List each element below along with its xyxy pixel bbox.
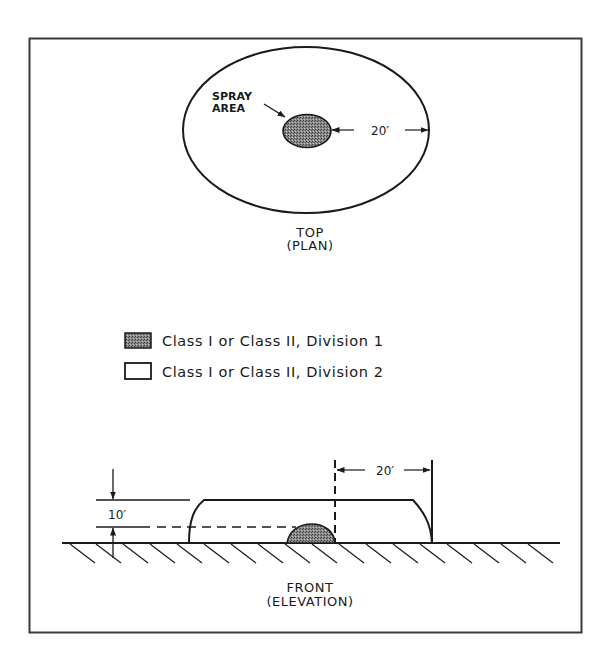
legend: Class I or Class II, Division 1 Class I … bbox=[125, 333, 384, 380]
height-dimension-label: 10′ bbox=[108, 508, 126, 522]
top-plan-view: SPRAY AREA 20′ TOP (PLAN) bbox=[183, 47, 429, 253]
front-view-subtitle: (ELEVATION) bbox=[267, 594, 354, 609]
radius-dimension-label: 20′ bbox=[371, 124, 389, 138]
legend-label-division1: Class I or Class II, Division 1 bbox=[162, 333, 384, 349]
top-view-subtitle: (PLAN) bbox=[286, 238, 333, 253]
legend-swatch-division2 bbox=[125, 363, 151, 379]
front-elevation-view: 20′ 10′ FRONT (ELEVATION) bbox=[62, 460, 560, 609]
spray-area-classification-diagram: SPRAY AREA 20′ TOP (PLAN) Class I or Cla… bbox=[0, 0, 605, 651]
spray-pointer-arrow bbox=[264, 104, 285, 117]
horizontal-dimension-label: 20′ bbox=[376, 464, 394, 478]
ground-hatching bbox=[70, 544, 553, 563]
legend-label-division2: Class I or Class II, Division 2 bbox=[162, 364, 384, 380]
front-view-title: FRONT bbox=[287, 580, 334, 595]
legend-swatch-division1 bbox=[125, 333, 151, 348]
spray-area-blob bbox=[283, 115, 331, 148]
spray-label-line2: AREA bbox=[212, 102, 245, 115]
